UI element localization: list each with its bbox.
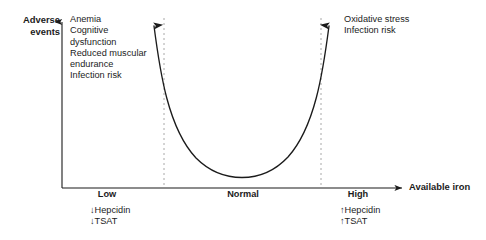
y-axis-title: Adverse events: [8, 14, 60, 37]
x-axis-title: Available iron: [409, 181, 470, 192]
iron-adverse-events-figure: Adverse events Anemia Cognitive dysfunct…: [0, 0, 486, 240]
adverse-events-curve: [154, 26, 329, 178]
high-iron-effects-annotation: Oxidative stress Infection risk: [344, 14, 409, 37]
x-tick-label-low: Low: [79, 189, 135, 200]
low-iron-biomarkers: ↓Hepcidin ↓TSAT: [90, 205, 130, 228]
x-tick-label-high: High: [330, 189, 386, 200]
high-iron-biomarkers: ↑Hepcidin ↑TSAT: [340, 205, 380, 228]
low-iron-effects-annotation: Anemia Cognitive dysfunction Reduced mus…: [70, 14, 147, 82]
x-tick-label-normal: Normal: [214, 189, 272, 200]
